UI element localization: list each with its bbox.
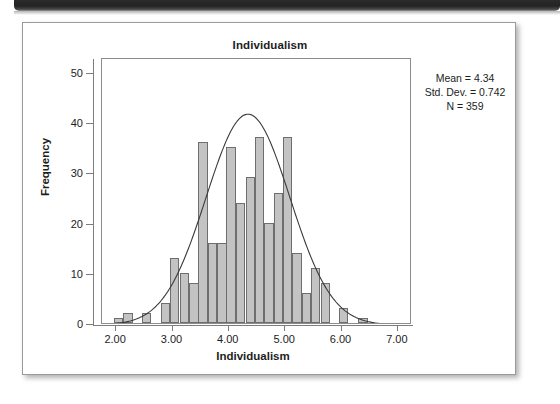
x-axis-tick <box>172 325 173 331</box>
histogram-bar <box>161 303 170 323</box>
plot-area <box>101 58 411 324</box>
x-axis-tick-label: 2.00 <box>93 333 137 345</box>
histogram-bar <box>208 243 217 323</box>
x-axis-tick-label: 6.00 <box>319 333 363 345</box>
histogram-bar <box>358 318 367 323</box>
figure-card: Individualism 01020304050 Frequency 2.00… <box>22 22 516 375</box>
histogram-bar <box>226 147 235 323</box>
stat-std-dev: Std. Dev. = 0.742 <box>415 85 515 99</box>
histogram-bar <box>180 273 189 323</box>
x-axis-tick-label: 5.00 <box>262 333 306 345</box>
histogram-bars <box>102 59 410 323</box>
page-scan-top-band-shadow <box>14 11 560 15</box>
y-axis-tick <box>86 324 93 325</box>
x-axis-title: Individualism <box>93 350 413 362</box>
y-axis-tick-label: 10 <box>53 268 83 280</box>
histogram-bar <box>246 177 255 323</box>
x-axis-tick-label: 7.00 <box>375 333 419 345</box>
statistics-annotation: Mean = 4.34 Std. Dev. = 0.742 N = 359 <box>415 71 515 113</box>
histogram-bar <box>198 142 207 323</box>
histogram-bar <box>114 318 123 323</box>
y-axis-tick-label: 30 <box>53 167 83 179</box>
histogram-bar <box>292 253 301 323</box>
histogram-bar <box>321 283 330 323</box>
histogram-bar <box>170 258 179 323</box>
histogram-bar <box>274 193 283 323</box>
histogram-bar <box>255 137 264 323</box>
histogram-bar <box>311 268 320 323</box>
y-axis-tick <box>86 173 93 174</box>
histogram-bar <box>189 283 198 323</box>
stat-mean: Mean = 4.34 <box>415 71 515 85</box>
x-axis-tick-label: 4.00 <box>206 333 250 345</box>
y-axis-tick <box>86 274 93 275</box>
y-axis-tick-label: 20 <box>53 218 83 230</box>
y-axis-tick <box>86 73 93 74</box>
x-axis-tick-label: 3.00 <box>150 333 194 345</box>
histogram-bar <box>236 203 245 323</box>
histogram-bar <box>264 223 273 323</box>
page-scan-top-band <box>14 0 560 11</box>
histogram-bar <box>142 313 151 323</box>
x-axis-tick <box>228 325 229 331</box>
y-axis-line <box>93 59 94 325</box>
histogram-bar <box>302 293 311 323</box>
x-axis-line <box>93 325 413 326</box>
histogram-bar <box>123 313 132 323</box>
x-axis-tick <box>115 325 116 331</box>
x-axis-tick <box>284 325 285 331</box>
y-axis-title: Frequency <box>39 112 51 222</box>
y-axis-tick <box>86 123 93 124</box>
y-axis-tick-label: 0 <box>53 318 83 330</box>
y-axis-tick <box>86 224 93 225</box>
chart-title: Individualism <box>23 39 517 51</box>
histogram-bar <box>217 243 226 323</box>
y-axis-tick-label: 40 <box>53 117 83 129</box>
histogram-bar <box>283 137 292 323</box>
x-axis-tick <box>397 325 398 331</box>
y-axis-tick-label: 50 <box>53 67 83 79</box>
stat-n: N = 359 <box>415 99 515 113</box>
x-axis-tick <box>341 325 342 331</box>
histogram-bar <box>339 308 348 323</box>
